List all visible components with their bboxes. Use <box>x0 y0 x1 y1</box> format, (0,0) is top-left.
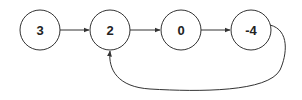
node-0: 0 <box>161 10 201 50</box>
node-label: 2 <box>106 23 113 38</box>
linked-list-diagram: 3 2 0 -4 <box>0 0 302 100</box>
node-2: 2 <box>90 10 130 50</box>
node-label: -4 <box>245 23 257 38</box>
node-label: 3 <box>36 23 43 38</box>
diagram-svg: 3 2 0 -4 <box>0 0 302 100</box>
node-label: 0 <box>177 23 184 38</box>
node-3: 3 <box>20 10 60 50</box>
node-neg4: -4 <box>231 10 271 50</box>
